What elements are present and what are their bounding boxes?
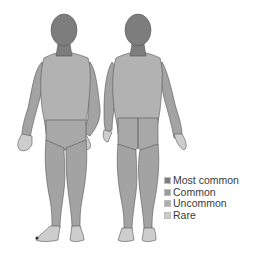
legend-label: Rare: [173, 210, 196, 221]
legend: Most common Common Uncommon Rare: [164, 175, 239, 221]
back-left-leg: [117, 144, 137, 230]
back-left-foot: [118, 228, 134, 242]
front-right-foot: [70, 226, 84, 242]
front-head: [51, 14, 77, 46]
front-left-arm: [22, 62, 44, 138]
legend-label: Most common: [173, 175, 239, 186]
back-right-hand: [174, 134, 186, 150]
back-right-foot: [142, 228, 156, 242]
legend-swatch: [164, 212, 171, 219]
legend-label: Uncommon: [173, 198, 227, 209]
front-left-leg: [45, 140, 65, 228]
back-right-leg: [139, 144, 159, 230]
front-left-foot: [36, 226, 60, 242]
legend-swatch: [164, 177, 171, 184]
front-toe-mark: [35, 236, 38, 239]
legend-swatch: [164, 189, 171, 196]
legend-label: Common: [173, 187, 216, 198]
legend-item-rare: Rare: [164, 210, 239, 222]
front-left-hand: [18, 134, 32, 151]
front-view: [18, 14, 100, 242]
back-right-arm: [160, 62, 182, 138]
back-left-hand: [103, 130, 112, 142]
front-right-leg: [66, 140, 87, 228]
legend-swatch: [164, 200, 171, 207]
legend-item-most-common: Most common: [164, 175, 239, 187]
back-head: [125, 14, 151, 46]
legend-item-uncommon: Uncommon: [164, 198, 239, 210]
